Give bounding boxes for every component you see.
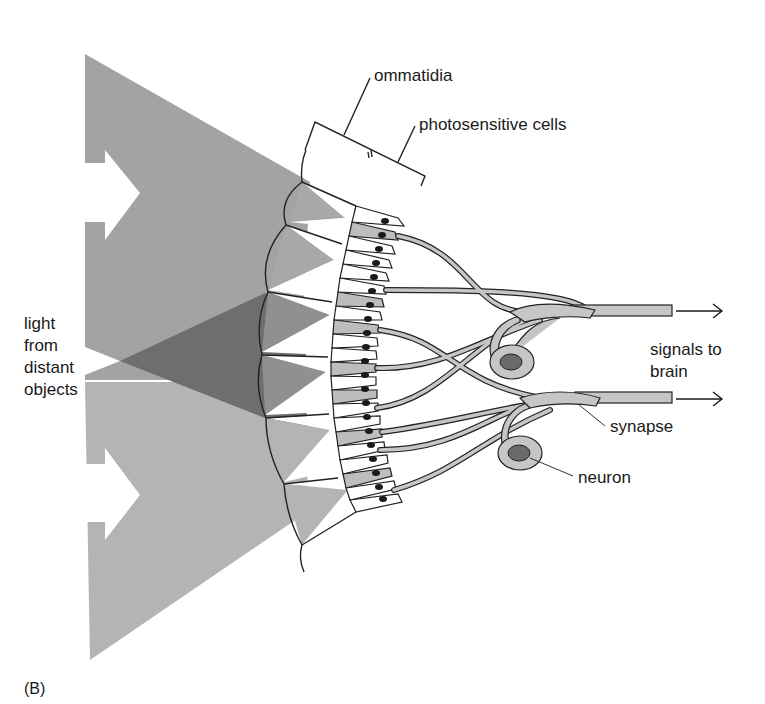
label-signals-2: brain — [650, 362, 688, 381]
label-light-3: distant — [24, 358, 74, 377]
axon-fibers — [377, 236, 585, 490]
label-light-1: light — [24, 314, 55, 333]
label-photosensitive-cells: photosensitive cells — [419, 115, 566, 134]
photoreceptor-array — [331, 206, 404, 512]
label-light-4: objects — [24, 380, 78, 399]
label-synapse: synapse — [610, 417, 673, 436]
compound-eye-diagram: ommatidia photosensitive cells light fro… — [0, 0, 765, 704]
label-light-2: from — [24, 336, 58, 355]
label-ommatidia: ommatidia — [374, 66, 453, 85]
label-neuron: neuron — [578, 468, 631, 487]
label-bracket — [305, 78, 425, 186]
label-signals-1: signals to — [650, 340, 722, 359]
panel-label: (B) — [24, 680, 45, 697]
upper-neuron — [490, 304, 672, 379]
